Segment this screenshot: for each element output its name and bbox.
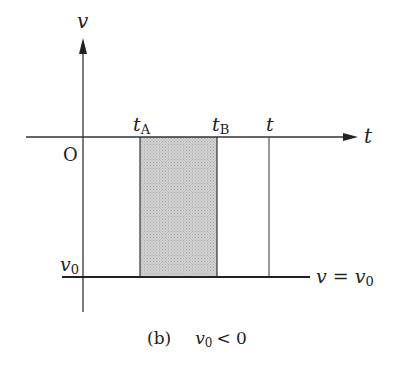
shaded-area	[140, 137, 217, 277]
tB-label: tB	[212, 113, 229, 137]
t-axis-label: t	[364, 124, 373, 148]
velocity-time-diagram: v t O tA tB t v0 v=v0 (b)v0< 0	[0, 0, 397, 375]
t-label: t	[266, 113, 274, 135]
v-axis-label: v	[77, 9, 89, 33]
t-axis-arrow-icon	[343, 133, 358, 141]
tA-label: tA	[133, 113, 151, 137]
caption: (b)v0< 0	[147, 328, 247, 350]
v0-label: v0	[60, 253, 79, 277]
v-axis-arrow-icon	[79, 38, 87, 54]
v-equals-v0-label: v=v0	[316, 265, 374, 289]
origin-label: O	[63, 144, 78, 165]
